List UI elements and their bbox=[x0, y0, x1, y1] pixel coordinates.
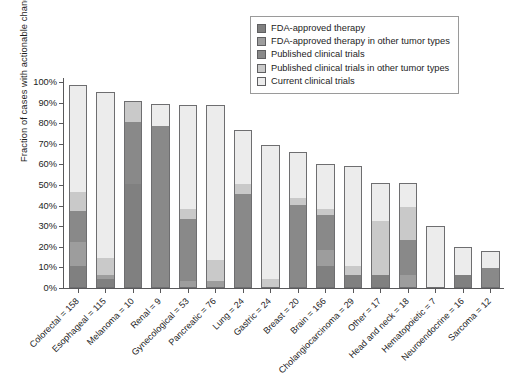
plot-area: 0%10%20%30%40%50%60%70%80%90%100% bbox=[64, 82, 504, 288]
bar-segment[interactable] bbox=[317, 266, 334, 287]
stacked-bar[interactable] bbox=[371, 183, 390, 288]
bar-segment[interactable] bbox=[317, 250, 334, 266]
legend-item[interactable]: Current clinical trials bbox=[257, 75, 450, 88]
y-tick-label: 80% bbox=[0, 118, 64, 128]
x-axis-line bbox=[63, 288, 504, 289]
bar-segment[interactable] bbox=[345, 167, 362, 267]
bar-column[interactable] bbox=[316, 78, 335, 288]
bar-column[interactable] bbox=[179, 78, 198, 288]
legend-label: FDA-approved therapy in other tumor type… bbox=[271, 37, 450, 46]
bar-segment[interactable] bbox=[152, 105, 169, 127]
stacked-bar[interactable] bbox=[399, 183, 418, 288]
y-tick-label: 90% bbox=[0, 98, 64, 108]
bar-segment[interactable] bbox=[235, 131, 252, 184]
bar-segment[interactable] bbox=[97, 258, 114, 274]
stacked-bar[interactable] bbox=[289, 152, 308, 288]
bar-column[interactable] bbox=[124, 78, 143, 288]
bar-segment[interactable] bbox=[180, 281, 197, 287]
bar-column[interactable] bbox=[371, 78, 390, 288]
y-tick-label: 40% bbox=[0, 201, 64, 211]
bar-segment[interactable] bbox=[345, 275, 362, 287]
bar-column[interactable] bbox=[289, 78, 308, 288]
stacked-bar[interactable] bbox=[481, 251, 500, 288]
bar-segment[interactable] bbox=[125, 102, 142, 123]
bar-segment[interactable] bbox=[482, 252, 499, 268]
bar-segment[interactable] bbox=[400, 184, 417, 207]
bar-segment[interactable] bbox=[125, 184, 142, 287]
bar-segment[interactable] bbox=[180, 106, 197, 209]
bar-segment[interactable] bbox=[180, 219, 197, 281]
stacked-bar[interactable] bbox=[261, 145, 280, 288]
legend-item[interactable]: Published clinical trials in other tumor… bbox=[257, 62, 450, 75]
bar-segment[interactable] bbox=[290, 153, 307, 198]
bar-segment[interactable] bbox=[70, 242, 87, 267]
legend-item[interactable]: FDA-approved therapy bbox=[257, 22, 450, 35]
bar-segment[interactable] bbox=[290, 205, 307, 287]
bar-segment[interactable] bbox=[97, 279, 114, 287]
bar-segment[interactable] bbox=[97, 275, 114, 279]
bar-segment[interactable] bbox=[317, 215, 334, 250]
stacked-bar[interactable] bbox=[234, 130, 253, 288]
bar-column[interactable] bbox=[96, 78, 115, 288]
bar-segment[interactable] bbox=[372, 184, 389, 221]
stacked-bar[interactable] bbox=[69, 85, 88, 288]
bar-segment[interactable] bbox=[235, 194, 252, 287]
stacked-bar[interactable] bbox=[206, 105, 225, 288]
bar-column[interactable] bbox=[206, 78, 225, 288]
bar-segment[interactable] bbox=[455, 248, 472, 275]
bar-column[interactable] bbox=[151, 78, 170, 288]
bar-segment[interactable] bbox=[400, 275, 417, 287]
bar-segment[interactable] bbox=[317, 165, 334, 208]
bar-segment[interactable] bbox=[345, 266, 362, 274]
bar-segment[interactable] bbox=[317, 209, 334, 215]
bar-segment[interactable] bbox=[400, 240, 417, 275]
bar-column[interactable] bbox=[426, 78, 445, 288]
bar-segment[interactable] bbox=[180, 209, 197, 219]
bar-segment[interactable] bbox=[152, 126, 169, 287]
bar-segment[interactable] bbox=[455, 275, 472, 287]
y-tick-label: 60% bbox=[0, 159, 64, 169]
bar-segment[interactable] bbox=[372, 275, 389, 287]
bar-column[interactable] bbox=[481, 78, 500, 288]
stacked-bar[interactable] bbox=[96, 92, 115, 288]
bar-segment[interactable] bbox=[207, 260, 224, 281]
bar-column[interactable] bbox=[261, 78, 280, 288]
y-tick-label: 100% bbox=[0, 77, 64, 87]
bar-segment[interactable] bbox=[482, 268, 499, 287]
stacked-bar[interactable] bbox=[454, 247, 473, 288]
stacked-bar[interactable] bbox=[179, 105, 198, 288]
bar-column[interactable] bbox=[454, 78, 473, 288]
stacked-bar[interactable] bbox=[151, 104, 170, 288]
bar-column[interactable] bbox=[344, 78, 363, 288]
bar-column[interactable] bbox=[69, 78, 88, 288]
bar-segment[interactable] bbox=[290, 198, 307, 204]
legend-swatch bbox=[257, 77, 266, 86]
bar-segment[interactable] bbox=[125, 122, 142, 184]
bar-column[interactable] bbox=[234, 78, 253, 288]
bar-segment[interactable] bbox=[70, 266, 87, 287]
stacked-bar[interactable] bbox=[344, 166, 363, 289]
bar-segment[interactable] bbox=[262, 279, 279, 287]
bar-segment[interactable] bbox=[70, 211, 87, 242]
bar-segment[interactable] bbox=[400, 207, 417, 240]
bar-segment[interactable] bbox=[262, 146, 279, 279]
bar-segment[interactable] bbox=[207, 281, 224, 287]
bar-segment[interactable] bbox=[207, 106, 224, 261]
bar-segment[interactable] bbox=[70, 192, 87, 211]
bar-segment[interactable] bbox=[70, 86, 87, 192]
stacked-bar[interactable] bbox=[124, 101, 143, 288]
y-tick-label: 30% bbox=[0, 221, 64, 231]
legend-item[interactable]: Published clinical trials bbox=[257, 48, 450, 61]
bar-column[interactable] bbox=[399, 78, 418, 288]
y-tick-label: 0% bbox=[0, 283, 64, 293]
stacked-bar[interactable] bbox=[426, 226, 445, 288]
chart-legend: FDA-approved therapyFDA-approved therapy… bbox=[250, 16, 459, 94]
bar-segment[interactable] bbox=[372, 221, 389, 275]
legend-swatch bbox=[257, 24, 266, 33]
bar-segment[interactable] bbox=[97, 93, 114, 258]
bar-segment[interactable] bbox=[235, 184, 252, 194]
stacked-bar[interactable] bbox=[316, 164, 335, 288]
legend-label: Published clinical trials bbox=[271, 50, 365, 59]
legend-item[interactable]: FDA-approved therapy in other tumor type… bbox=[257, 35, 450, 48]
bar-segment[interactable] bbox=[427, 227, 444, 287]
